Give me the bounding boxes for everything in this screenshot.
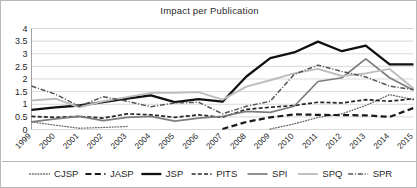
x-tick-label: 2013 xyxy=(348,131,368,151)
y-tick-label: 0.5 xyxy=(15,112,28,122)
y-tick-label: 1.5 xyxy=(15,87,28,97)
x-tick-label: 1999 xyxy=(14,131,34,151)
x-tick-label: 2003 xyxy=(109,131,129,151)
y-tick-label: 4 xyxy=(22,24,27,34)
x-tick-label: 2014 xyxy=(372,131,392,151)
x-tick-label: 2008 xyxy=(229,131,249,151)
x-tick-label: 2000 xyxy=(38,131,58,151)
x-tick-label: 2010 xyxy=(276,131,296,151)
y-tick-label: 3 xyxy=(22,49,27,59)
x-tick-label: 2006 xyxy=(181,131,201,151)
legend-label-jasp: JASP xyxy=(110,168,134,179)
line-chart: 00.511.522.533.54 1999200020012002200320… xyxy=(1,1,417,188)
x-tick-label: 2012 xyxy=(324,131,344,151)
y-tick-label: 1 xyxy=(22,99,27,109)
x-axis-tick-labels: 1999200020012002200320042005200620072008… xyxy=(14,131,416,151)
chart-legend: CJSPJASPJSPPITSSPISPQSPR xyxy=(30,168,393,179)
x-tick-label: 2015 xyxy=(396,131,416,151)
series-line-cjsp xyxy=(32,122,128,128)
legend-label-jsp: JSP xyxy=(166,168,183,179)
legend-label-spq: SPQ xyxy=(322,168,342,179)
chart-card: Impact per Publication 00.511.522.533.54… xyxy=(0,0,417,188)
x-tick-label: 2007 xyxy=(205,131,225,151)
x-tick-label: 2001 xyxy=(61,131,81,151)
y-axis-tick-labels: 00.511.522.533.54 xyxy=(15,24,28,135)
series-line-spr xyxy=(32,65,414,114)
legend-label-spi: SPI xyxy=(272,168,287,179)
series-line-cjsp xyxy=(270,95,413,129)
x-tick-label: 2004 xyxy=(133,131,153,151)
x-tick-label: 2002 xyxy=(85,131,105,151)
chart-svg: 00.511.522.533.54 1999200020012002200320… xyxy=(1,1,417,188)
x-tick-label: 2009 xyxy=(252,131,272,151)
legend-label-spr: SPR xyxy=(373,168,393,179)
y-tick-label: 2 xyxy=(22,74,27,84)
legend-label-cjsp: CJSP xyxy=(54,168,78,179)
x-tick-label: 2011 xyxy=(301,131,320,150)
series-lines xyxy=(32,42,414,129)
y-tick-label: 3.5 xyxy=(15,36,28,46)
y-tick-label: 2.5 xyxy=(15,62,28,72)
x-tick-label: 2005 xyxy=(157,131,177,151)
series-line-spi xyxy=(32,59,414,122)
legend-label-pits: PITS xyxy=(216,168,237,179)
